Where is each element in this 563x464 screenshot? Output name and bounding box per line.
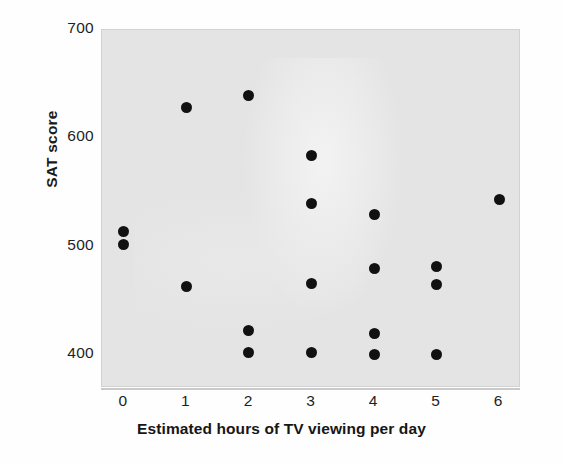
background-texture-secondary	[135, 190, 385, 332]
x-tick-label: 3	[296, 392, 326, 410]
data-point	[306, 150, 317, 161]
data-point	[369, 209, 380, 220]
y-tick-label: 400	[48, 344, 94, 362]
data-point	[306, 278, 317, 289]
x-tick-label: 1	[170, 392, 200, 410]
data-point	[431, 261, 442, 272]
y-tick-label: 600	[48, 127, 94, 145]
data-point	[306, 347, 317, 358]
x-tick-label: 5	[421, 392, 451, 410]
data-point	[118, 239, 129, 250]
data-point	[431, 349, 442, 360]
y-tick-label: 700	[48, 19, 94, 37]
data-point	[431, 279, 442, 290]
data-point	[243, 90, 254, 101]
data-point	[118, 226, 129, 237]
data-point	[369, 328, 380, 339]
y-tick-label: 500	[48, 236, 94, 254]
data-point	[243, 325, 254, 336]
x-tick-label: 0	[108, 392, 138, 410]
data-point	[369, 263, 380, 274]
plot-area	[101, 29, 520, 387]
data-point	[306, 198, 317, 209]
x-tick-label: 4	[358, 392, 388, 410]
background-texture	[244, 58, 402, 314]
x-axis-line	[101, 388, 520, 390]
scatter-plot-figure: SAT score 400500600700 0123456 Estimated…	[0, 0, 563, 464]
data-point	[181, 102, 192, 113]
data-point	[243, 347, 254, 358]
x-tick-label: 6	[483, 392, 513, 410]
data-point	[181, 281, 192, 292]
x-axis-tick-labels: 0123456	[0, 392, 563, 416]
x-tick-label: 2	[233, 392, 263, 410]
x-axis-title: Estimated hours of TV viewing per day	[0, 420, 563, 438]
data-point	[494, 194, 505, 205]
data-point	[369, 349, 380, 360]
